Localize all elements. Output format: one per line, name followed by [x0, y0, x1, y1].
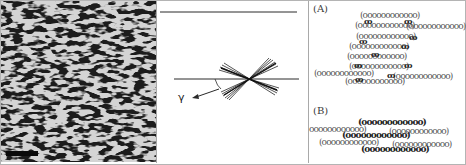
crosslink-knot: ꝏ — [401, 42, 409, 50]
label-b: (B) — [313, 106, 328, 116]
coil-row: (oooooooooooo) — [361, 145, 429, 154]
coil-row: (oooooooooooo) — [393, 72, 452, 81]
crosslink-knot: ꝏ — [354, 61, 362, 69]
crosslink-knot: ꝏ — [404, 61, 412, 69]
fibril-schematic-panel: (A) (oooooooooooo) (oooooooooooo) (ooooo… — [309, 1, 464, 162]
crosslink-knot: ꝏ — [409, 33, 417, 41]
angle-diagram-panel: γ — [157, 1, 308, 162]
crosslink-knot: ꝏ — [404, 17, 412, 25]
gamma-label: γ — [178, 92, 185, 103]
micrograph-panel — [1, 1, 156, 162]
coil-row: (oooooooooooo) — [406, 22, 465, 31]
crosslink-knot: ꝏ — [359, 37, 367, 45]
scale-bar — [6, 151, 38, 156]
label-a: (A) — [313, 4, 328, 14]
crosslink-knot: ꝏ — [387, 71, 395, 79]
angle-diagram — [157, 1, 308, 162]
micrograph-texture — [1, 1, 156, 162]
crosslink-knot: ꝏ — [371, 50, 379, 58]
crosslink-knot: ꝏ — [355, 75, 363, 83]
crosslink-knot: ꝏ — [364, 17, 372, 25]
